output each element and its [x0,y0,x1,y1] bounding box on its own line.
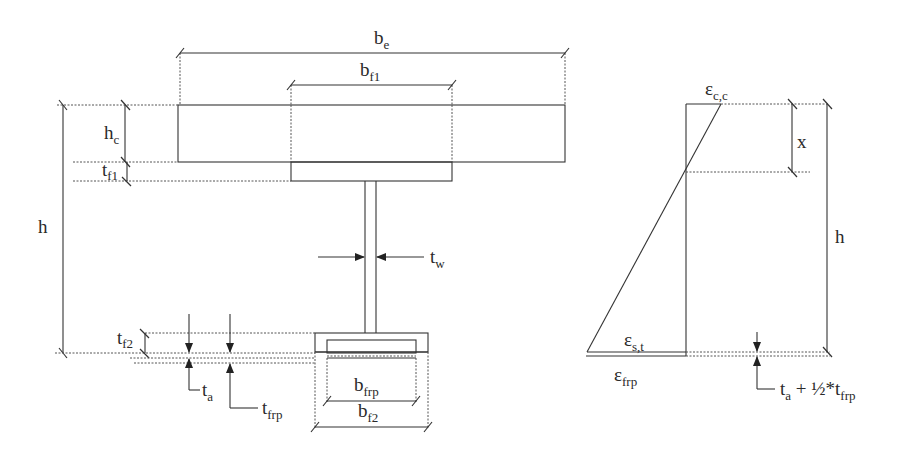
concrete-slab [178,105,565,162]
bottom-flange [315,333,428,352]
beam-diagram: be bf1 hc tf1 h tw [0,0,904,451]
frp-plate [327,340,416,353]
cross-section [178,105,565,358]
dim-hc: hc [104,100,130,167]
label-ecc: εc,c [705,78,728,103]
dim-bfrp: bfrp [323,358,420,406]
top-flange [291,162,452,181]
label-bfrp: bfrp [354,374,379,399]
label-tw: tw [430,246,445,271]
dim-h-section: h [38,100,315,358]
dim-ta: ta [189,314,213,404]
label-tf1: tf1 [102,159,118,183]
dim-be: be [176,27,569,105]
label-offset: ta + ½*tfrp [780,378,855,403]
label-hc: hc [104,122,120,147]
label-efrp: εfrp [614,364,637,389]
label-bf2: bf2 [358,400,378,425]
label-est: εs,t [624,329,644,354]
label-ta: ta [202,379,213,404]
label-h-strain: h [835,226,845,247]
label-tf2: tf2 [117,327,133,351]
label-x: x [797,131,807,152]
dim-tfrp: tfrp [230,314,282,422]
label-h-section: h [38,216,48,237]
dim-tf1: tf1 [102,159,131,186]
label-bf1: bf1 [360,59,380,84]
label-tfrp: tfrp [262,397,282,422]
strain-line [587,104,721,352]
dim-bf1: bf1 [287,59,456,105]
label-be: be [374,27,390,52]
dim-tw: tw [318,246,445,271]
